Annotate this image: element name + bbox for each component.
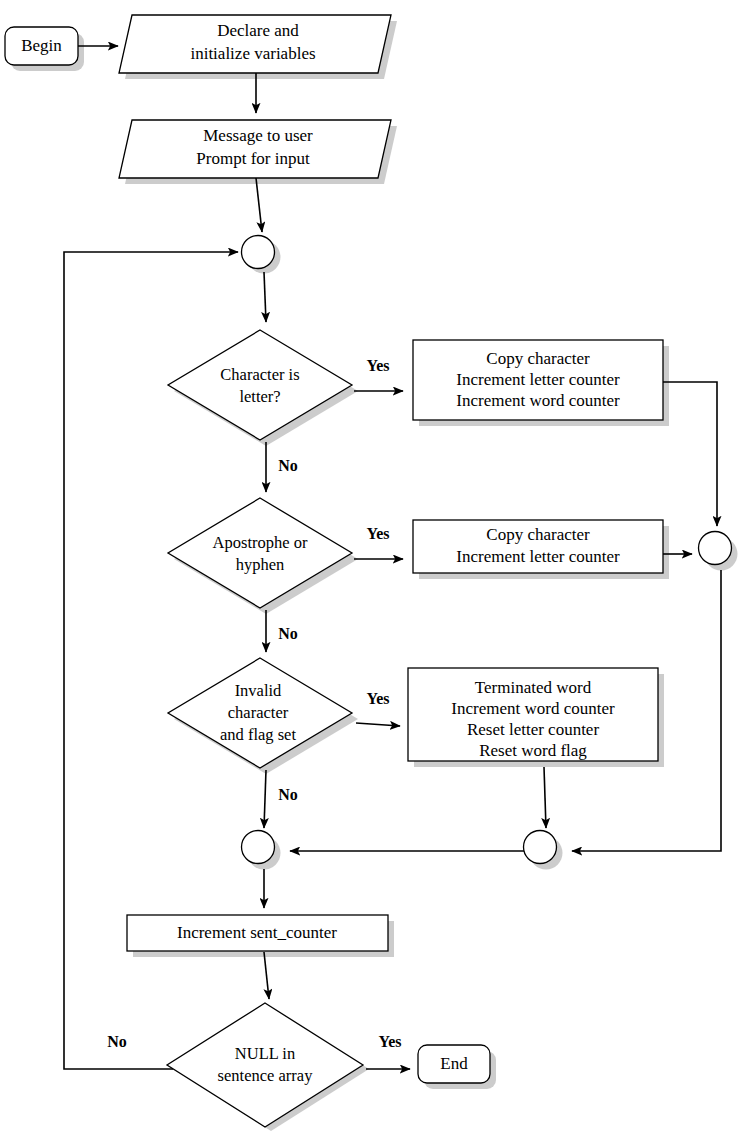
edge-invalid-no (264, 770, 266, 828)
node-loop-connector (242, 236, 275, 269)
branch-label-apostrophe-no: No (278, 625, 298, 642)
decision-null-line1: NULL in (235, 1044, 295, 1063)
process-letter-line2: Increment letter counter (456, 370, 620, 389)
decision-letter-diamond (168, 330, 352, 440)
declare-line1: Declare and (217, 21, 299, 40)
shadow-layer (11, 21, 738, 1131)
process-letter-line1: Copy character (486, 349, 590, 368)
decision-invalid-line3: and flag set (220, 725, 296, 744)
node-end: End (418, 1045, 490, 1083)
node-merge-right (524, 831, 557, 864)
loop-connector-circle (242, 236, 275, 269)
decision-letter-line1: Character is (220, 365, 299, 384)
node-decision-null-in-sentence-array: NULL in sentence array (167, 1003, 363, 1127)
process-invalid-line2: Increment word counter (451, 699, 615, 718)
node-merge-left (242, 831, 275, 864)
node-process-letter: Copy character Increment letter counter … (413, 340, 663, 420)
edge-loop-connector-to-decision-letter (264, 272, 266, 322)
node-decision-character-is-letter: Character is letter? (168, 330, 352, 440)
node-process-apostrophe: Copy character Increment letter counter (413, 520, 663, 573)
branch-label-invalid-no: No (278, 786, 298, 803)
edge-process-invalid-to-merge-right (544, 767, 546, 828)
end-label: End (440, 1054, 468, 1073)
decision-apostrophe-line2: hyphen (236, 555, 285, 574)
edge-invalid-yes (356, 723, 400, 726)
message-line1: Message to user (203, 126, 313, 145)
branch-label-apostrophe-yes: Yes (366, 525, 389, 542)
node-decision-apostrophe-or-hyphen: Apostrophe or hyphen (168, 498, 352, 608)
process-apostrophe-line1: Copy character (486, 525, 590, 544)
node-declare-variables: Declare and initialize variables (119, 15, 391, 73)
decision-invalid-line2: character (228, 703, 289, 722)
declare-line2: initialize variables (190, 44, 315, 63)
branch-label-null-no: No (107, 1033, 127, 1050)
increment-sent-counter-label: Increment sent_counter (177, 923, 337, 942)
node-message-prompt: Message to user Prompt for input (119, 120, 391, 178)
node-process-invalid: Terminated word Increment word counter R… (408, 668, 658, 761)
process-letter-line3: Increment word counter (456, 391, 620, 410)
flowchart-canvas: Begin Declare and initialize variables M… (0, 0, 744, 1135)
node-increment-sent-counter: Increment sent_counter (127, 915, 388, 951)
branch-label-invalid-yes: Yes (366, 690, 389, 707)
decision-letter-line2: letter? (239, 387, 280, 406)
node-begin: Begin (5, 27, 78, 65)
node-decision-invalid-character: Invalid character and flag set (168, 658, 352, 768)
decision-null-line2: sentence array (218, 1066, 314, 1085)
flowchart-svg: Begin Declare and initialize variables M… (0, 0, 744, 1135)
begin-label: Begin (21, 36, 62, 55)
decision-apostrophe-diamond (168, 498, 352, 608)
node-right-connector (699, 532, 732, 565)
process-invalid-line1: Terminated word (475, 678, 592, 697)
process-invalid-line4: Reset word flag (479, 741, 587, 760)
branch-label-letter-yes: Yes (366, 357, 389, 374)
branch-label-letter-no: No (278, 457, 298, 474)
process-invalid-line3: Reset letter counter (467, 720, 600, 739)
process-apostrophe-line2: Increment letter counter (456, 547, 620, 566)
branch-label-null-yes: Yes (378, 1033, 401, 1050)
decision-apostrophe-line1: Apostrophe or (213, 533, 308, 552)
merge-right-circle (524, 831, 557, 864)
edge-increment-to-decision-null (264, 952, 269, 999)
merge-left-circle (242, 831, 275, 864)
edge-message-to-loop-connector (256, 178, 262, 232)
decision-invalid-line1: Invalid (235, 681, 282, 700)
right-connector-circle (699, 532, 732, 565)
message-line2: Prompt for input (196, 149, 310, 168)
edge-process-letter-to-right-connector (663, 382, 717, 526)
